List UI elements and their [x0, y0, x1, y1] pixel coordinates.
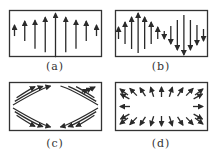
radial-arrow-bottom [140, 117, 145, 125]
field-line-bottom-left [15, 112, 43, 127]
panel-c-label: (c) [25, 137, 85, 150]
field-line-top-left [17, 87, 35, 98]
panel-b-label: (b) [131, 60, 191, 73]
radial-arrow-top [169, 87, 172, 97]
radial-arrow-top [151, 87, 154, 97]
field-line-top-left [15, 86, 43, 101]
panel-a-label: (a) [25, 60, 85, 73]
radial-arrow-top [140, 88, 145, 96]
field-line-bottom-right [76, 115, 94, 126]
field-line-bottom-right [68, 112, 96, 127]
field-diagram [0, 0, 214, 157]
panel-d-arrows [120, 87, 203, 126]
radial-arrow-bottom [151, 116, 154, 126]
radial-arrow-bottom [169, 116, 172, 126]
radial-arrow-top [178, 88, 183, 96]
panel-b-frame [116, 11, 208, 57]
radial-arrow-top [186, 88, 193, 95]
radial-arrow-top [130, 88, 137, 95]
panel-b-arrows [119, 13, 204, 55]
panel-d-label: (d) [131, 137, 191, 150]
panel-c-curves [13, 86, 98, 127]
radial-arrow-bottom [130, 117, 137, 124]
radial-arrow-bottom [186, 117, 193, 124]
radial-arrow-bottom [178, 117, 183, 125]
field-line-bottom-left [17, 115, 35, 126]
panel-a-arrows [15, 13, 97, 57]
